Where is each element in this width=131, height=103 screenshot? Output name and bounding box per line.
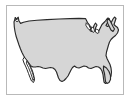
- us-map-canvas: Map of the contiguous United States: [7, 6, 123, 94]
- map-frame: Map of the contiguous United States: [6, 5, 124, 95]
- us-map-figure: Map of the contiguous United States: [0, 0, 131, 103]
- region-puget-sound-notch: [15, 18, 18, 22]
